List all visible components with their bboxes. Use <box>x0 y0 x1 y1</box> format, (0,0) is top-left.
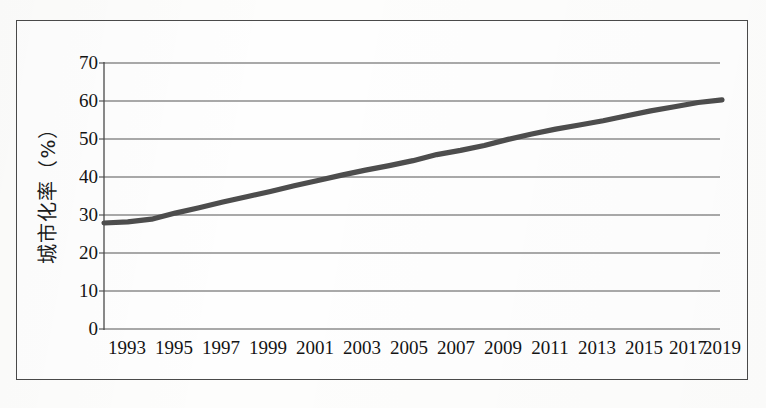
data-series-line <box>104 100 722 223</box>
x-tick-label: 2003 <box>343 337 381 359</box>
x-tick-label: 2013 <box>578 337 616 359</box>
chart-screenshot: 城市化率（%） 70 60 50 40 30 20 10 0 <box>0 0 766 408</box>
x-tick-label: 2009 <box>484 337 522 359</box>
x-tick-label: 2005 <box>390 337 428 359</box>
x-tick-label: 2015 <box>625 337 663 359</box>
x-tick-label: 2017 <box>669 337 707 359</box>
x-tick-label: 2007 <box>437 337 475 359</box>
x-axis-tick-labels: 1993 1995 1997 1999 2001 2003 2005 2007 … <box>0 337 766 367</box>
gridlines <box>104 63 720 329</box>
chart-figure: 城市化率（%） 70 60 50 40 30 20 10 0 <box>0 0 766 408</box>
x-tick-label: 2019 <box>703 337 741 359</box>
x-tick-label: 2001 <box>296 337 334 359</box>
x-tick-label: 2011 <box>531 337 568 359</box>
x-tick-label: 1995 <box>155 337 193 359</box>
x-tick-label: 1993 <box>108 337 146 359</box>
x-tick-label: 1999 <box>249 337 287 359</box>
x-tick-label: 1997 <box>202 337 240 359</box>
y-axis-ticks <box>99 63 104 329</box>
